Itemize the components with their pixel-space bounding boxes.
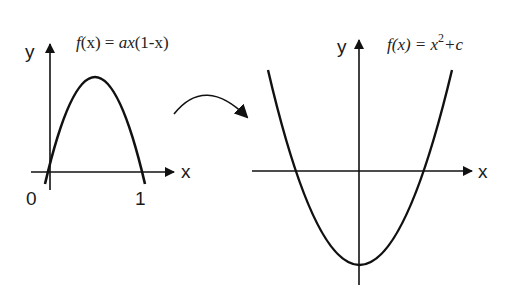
left-plot: y x 0 1 f(x) = ax(1-x) [25,33,191,209]
left-y-label: y [25,41,35,62]
tick-zero: 0 [26,188,37,209]
left-formula: f(x) = ax(1-x) [76,33,169,52]
left-x-label: x [181,161,191,182]
right-y-label: y [337,36,347,57]
left-curve-logistic [45,77,145,184]
right-formula: f(x) = x2+c [387,31,464,54]
transition-arrow-icon [174,95,247,117]
right-x-label: x [478,161,488,182]
diagram-canvas: y x 0 1 f(x) = ax(1-x) y x f(x) = x2+c [0,0,514,290]
right-plot: y x f(x) = x2+c [252,31,488,285]
tick-one: 1 [135,188,146,209]
right-curve-quadratic [268,70,452,265]
